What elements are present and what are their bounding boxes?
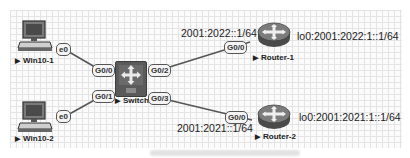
router-1-loopback-ip: lo0:2001:2022:1::1/64 <box>297 30 399 42</box>
links-layer <box>0 0 410 158</box>
switch-node[interactable] <box>115 61 147 97</box>
router-2-node[interactable] <box>257 104 291 130</box>
router-icon <box>257 104 291 130</box>
computer-icon <box>17 20 53 52</box>
play-arrow-icon: ▶ <box>15 57 20 64</box>
play-arrow-icon: ▶ <box>255 133 260 140</box>
switch-port-g0-3[interactable]: G0/3 <box>148 92 171 105</box>
switch-port-g0-1[interactable]: G0/1 <box>92 90 115 103</box>
play-arrow-icon: ▶ <box>115 97 120 104</box>
win10-2-port-e0[interactable]: e0 <box>56 110 71 123</box>
play-arrow-icon: ▶ <box>15 135 20 142</box>
router-icon <box>257 22 291 48</box>
win10-1-node[interactable] <box>17 20 53 52</box>
switch-label: ▶Switch <box>115 96 149 105</box>
router-1-port-g0-0[interactable]: G0/0 <box>224 41 247 54</box>
switch-arrows-icon <box>116 62 146 96</box>
switch-port-g0-0[interactable]: G0/0 <box>92 64 115 77</box>
router-2-interface-ip: 2001:2021::1/64 <box>177 122 253 134</box>
play-arrow-icon: ▶ <box>253 54 258 61</box>
win10-2-label: ▶Win10-2 <box>15 134 54 143</box>
win10-1-label: ▶Win10-1 <box>15 56 54 65</box>
computer-icon <box>17 101 53 133</box>
router-1-label: ▶Router-1 <box>253 53 294 62</box>
router-1-node[interactable] <box>257 22 291 48</box>
blurred-caption <box>150 150 300 156</box>
win10-2-node[interactable] <box>17 101 53 133</box>
win10-1-port-e0[interactable]: e0 <box>56 43 71 56</box>
switch-port-g0-2[interactable]: G0/2 <box>148 64 171 77</box>
router-2-loopback-ip: lo0:2001:2021:1::1/64 <box>299 111 401 123</box>
router-1-interface-ip: 2001:2022::1/64 <box>181 27 257 39</box>
router-2-label: ▶Router-2 <box>255 132 296 141</box>
